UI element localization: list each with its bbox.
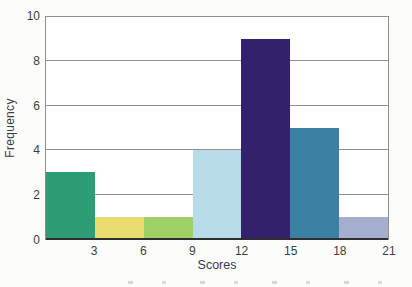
x-axis-title: Scores [45,258,389,272]
x-tick-label-15: 15 [276,244,306,258]
y-axis-title: Frequency [3,83,17,173]
y-tick-label-8: 8 [14,54,40,68]
x-tick-label-3: 3 [79,244,109,258]
y-tick-label-4: 4 [14,143,40,157]
x-tick-label-6: 6 [128,244,158,258]
gridline-y-6 [46,105,388,106]
histogram-bar-9-12 [193,150,242,239]
x-tick-label-21: 21 [374,244,404,258]
y-tick-label-10: 10 [14,9,40,23]
histogram-figure: Frequency 0246810 36912151821 Scores [0,0,412,287]
gridline-y-8 [46,60,388,61]
x-tick-label-9: 9 [177,244,207,258]
histogram-bar-12-15 [241,39,290,239]
y-tick-label-2: 2 [14,188,40,202]
cropped-caption-fragment [128,281,394,284]
histogram-bar-15-18 [290,128,339,239]
x-tick-label-12: 12 [227,244,257,258]
histogram-bar-0-3 [46,172,95,239]
histogram-bar-3-6 [95,217,144,239]
x-tick-label-18: 18 [325,244,355,258]
plot-area [45,16,389,240]
x-axis-baseline [46,238,388,240]
histogram-bar-18-21 [339,217,388,239]
y-tick-label-0: 0 [14,233,40,247]
y-tick-label-6: 6 [14,99,40,113]
histogram-bar-6-9 [144,217,193,239]
